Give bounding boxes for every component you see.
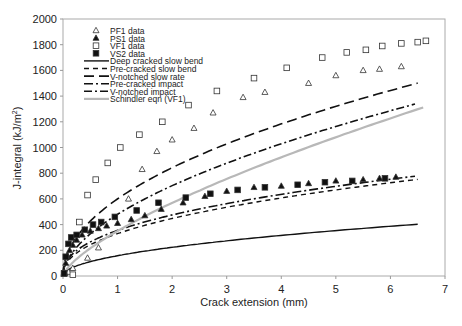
filled-square-icon bbox=[262, 185, 268, 191]
filled-square-icon bbox=[82, 227, 88, 233]
x-tick-label: 3 bbox=[224, 283, 230, 295]
filled-square-icon bbox=[112, 214, 118, 220]
open-square-icon bbox=[77, 219, 83, 225]
x-tick-label: 7 bbox=[442, 283, 448, 295]
open-square-icon bbox=[363, 47, 369, 53]
y-tick-label: 0 bbox=[51, 270, 57, 282]
y-tick-label: 400 bbox=[39, 219, 57, 231]
open-square-icon bbox=[160, 119, 166, 125]
filled-square-icon bbox=[295, 182, 301, 188]
open-square-icon bbox=[186, 102, 192, 108]
open-square-icon bbox=[85, 192, 91, 198]
filled-square-icon bbox=[63, 254, 69, 260]
filled-square-icon bbox=[382, 176, 388, 182]
j-integral-chart: 0200400600800100012001400160018002000 01… bbox=[0, 0, 462, 326]
y-tick-label: 1200 bbox=[33, 116, 57, 128]
open-square-icon bbox=[344, 50, 350, 56]
open-square-icon bbox=[399, 41, 405, 47]
open-square-icon bbox=[214, 88, 220, 94]
open-square-icon bbox=[284, 65, 290, 71]
x-tick-label: 2 bbox=[169, 283, 175, 295]
open-square-icon bbox=[105, 160, 111, 166]
open-square-icon bbox=[93, 43, 99, 49]
open-square-icon bbox=[251, 75, 257, 81]
filled-square-icon bbox=[322, 179, 328, 185]
filled-square-icon bbox=[61, 271, 67, 277]
open-square-icon bbox=[137, 132, 143, 138]
y-tick-label: 2000 bbox=[33, 13, 57, 25]
x-axis-title: Crack extension (mm) bbox=[200, 296, 308, 308]
x-tick-label: 0 bbox=[60, 283, 66, 295]
x-tick-label: 4 bbox=[278, 283, 284, 295]
filled-square-icon bbox=[349, 178, 355, 184]
filled-square-icon bbox=[66, 241, 72, 247]
open-square-icon bbox=[379, 43, 385, 49]
filled-square-icon bbox=[98, 219, 104, 225]
filled-square-icon bbox=[235, 187, 241, 193]
open-square-icon bbox=[118, 145, 124, 151]
filled-square-icon bbox=[93, 51, 99, 57]
open-square-icon bbox=[415, 39, 421, 45]
filled-square-icon bbox=[74, 232, 80, 238]
y-tick-label: 1800 bbox=[33, 39, 57, 51]
y-tick-label: 600 bbox=[39, 193, 57, 205]
x-axis: 01234567 bbox=[60, 276, 448, 295]
y-tick-label: 1600 bbox=[33, 64, 57, 76]
x-tick-label: 5 bbox=[333, 283, 339, 295]
x-tick-label: 1 bbox=[115, 283, 121, 295]
open-square-icon bbox=[93, 177, 99, 183]
open-square-icon bbox=[423, 38, 429, 44]
y-tick-label: 1400 bbox=[33, 90, 57, 102]
y-axis: 0200400600800100012001400160018002000 bbox=[33, 13, 63, 282]
y-tick-label: 1000 bbox=[33, 142, 57, 154]
filled-square-icon bbox=[68, 235, 74, 241]
open-square-icon bbox=[70, 272, 76, 278]
open-square-icon bbox=[319, 55, 325, 61]
filled-square-icon bbox=[208, 191, 214, 197]
y-tick-label: 800 bbox=[39, 167, 57, 179]
x-tick-label: 6 bbox=[387, 283, 393, 295]
y-tick-label: 200 bbox=[39, 244, 57, 256]
filled-square-icon bbox=[90, 222, 96, 228]
filled-square-icon bbox=[183, 195, 189, 201]
y-axis-title: J-integral (kJ/m2) bbox=[11, 107, 23, 190]
filled-square-icon bbox=[134, 208, 140, 214]
legend-label: Schindler eqn (VF1) bbox=[110, 94, 186, 104]
filled-square-icon bbox=[156, 200, 162, 206]
